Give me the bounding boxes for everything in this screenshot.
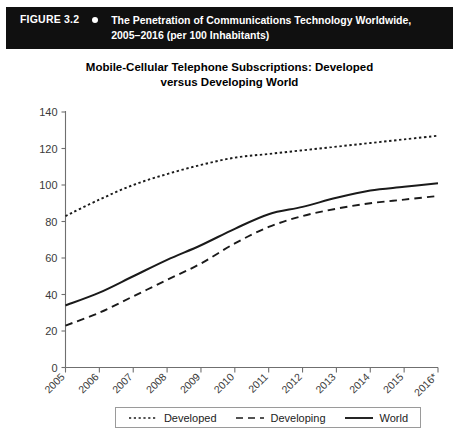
x-axis-tick-label: 2006 [76,370,101,395]
legend-label-world: World [380,412,409,424]
x-axis-tick-label: 2012 [279,370,304,395]
y-axis-tick-label: 80 [45,216,57,228]
series-line-developed [66,136,439,216]
legend-swatch-dotted [128,413,158,423]
legend-item-world: World [344,412,409,424]
x-axis-tick-label: 2010 [211,370,236,395]
legend-label-developing: Developing [271,412,326,424]
legend-item-developed: Developed [128,412,217,424]
y-axis-tick-label: 40 [45,289,57,301]
data-series-group [66,136,439,326]
x-axis-tick-label: 2008 [144,370,169,395]
x-axis-tick-label: 2011 [246,370,271,395]
legend-swatch-solid [344,413,374,423]
x-axis-tick-label: 2009 [177,370,202,395]
x-axis-tick-label: 2007 [110,370,135,395]
chart-legend: Developed Developing World [115,407,421,428]
y-axis-tick-label: 100 [39,179,57,191]
legend-item-developing: Developing [235,412,326,424]
x-axis-tick-label: 2013 [313,370,338,395]
x-axis-tick-label: 2015 [381,370,406,395]
y-axis-tick-label: 140 [39,106,57,118]
figure-container: FIGURE 3.2The Penetration of Communicati… [0,0,459,429]
x-axis-tick-label: 2005 [42,370,67,395]
line-chart: 020406080100120140 200520062007200820092… [0,0,459,429]
legend-label-developed: Developed [164,412,217,424]
x-axis-tick-label: 2014 [347,370,372,395]
x-axis-tick-label: 2016* [412,370,440,398]
legend-swatch-dashed [235,413,265,423]
y-axis: 020406080100120140 [39,106,65,374]
y-axis-tick-label: 120 [39,143,57,155]
series-line-developing [66,196,439,326]
y-axis-tick-label: 20 [45,325,57,337]
y-axis-tick-label: 60 [45,252,57,264]
plot-area: 020406080100120140 200520062007200820092… [0,0,459,429]
x-axis: 2005200620072008200920102011201220132014… [42,368,440,399]
